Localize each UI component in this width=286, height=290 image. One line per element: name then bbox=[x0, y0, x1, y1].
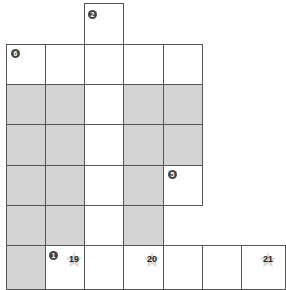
shaded-cell bbox=[123, 205, 164, 246]
grid-cell[interactable] bbox=[202, 245, 242, 290]
clue-number: 1 bbox=[49, 251, 58, 260]
grid-cell[interactable]: 1 19 bbox=[45, 245, 85, 290]
shaded-cell bbox=[163, 124, 203, 166]
grid-cell[interactable]: 6 bbox=[6, 44, 46, 85]
shaded-cell bbox=[6, 245, 46, 290]
star-number: 19 bbox=[65, 254, 83, 264]
grid-cell[interactable] bbox=[84, 205, 124, 246]
grid-cell[interactable] bbox=[84, 165, 124, 206]
grid-cell[interactable]: 21 bbox=[241, 245, 286, 290]
grid-cell[interactable] bbox=[84, 245, 124, 290]
shaded-cell bbox=[6, 84, 46, 125]
shaded-cell bbox=[6, 205, 46, 246]
shaded-cell bbox=[6, 124, 46, 166]
star-marker: 21 bbox=[259, 252, 277, 268]
shaded-cell bbox=[45, 165, 85, 206]
shaded-cell bbox=[163, 84, 203, 125]
grid-cell[interactable] bbox=[163, 44, 203, 85]
shaded-cell bbox=[45, 124, 85, 166]
star-number: 20 bbox=[143, 254, 161, 264]
grid-cell[interactable] bbox=[84, 84, 124, 125]
grid-cell[interactable]: 5 bbox=[163, 165, 203, 206]
grid-cell[interactable] bbox=[84, 124, 124, 166]
star-marker: 19 bbox=[65, 252, 83, 268]
clue-number: 5 bbox=[168, 170, 177, 179]
grid-cell[interactable] bbox=[84, 44, 124, 85]
grid-cell[interactable] bbox=[163, 245, 203, 290]
shaded-cell bbox=[123, 124, 164, 166]
shaded-cell bbox=[45, 205, 85, 246]
shaded-cell bbox=[45, 84, 85, 125]
grid-cell[interactable]: 20 bbox=[123, 245, 164, 290]
shaded-cell bbox=[6, 165, 46, 206]
grid-cell[interactable] bbox=[123, 44, 164, 85]
star-marker: 20 bbox=[143, 252, 161, 268]
clue-number: 2 bbox=[88, 10, 97, 19]
clue-number: 6 bbox=[11, 49, 20, 58]
grid-cell[interactable] bbox=[45, 44, 85, 85]
shaded-cell bbox=[123, 165, 164, 206]
star-number: 21 bbox=[259, 254, 277, 264]
shaded-cell bbox=[123, 84, 164, 125]
grid-cell[interactable]: 2 bbox=[84, 3, 124, 45]
